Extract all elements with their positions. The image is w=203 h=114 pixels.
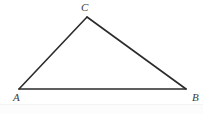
vertex-label-c: C [81, 2, 88, 13]
edge-a-to-c [19, 17, 87, 89]
vertex-label-a: A [13, 92, 20, 103]
vertex-label-b: B [192, 92, 199, 103]
edge-c-to-b [87, 17, 186, 89]
triangle-figure: C A B [0, 0, 203, 114]
triangle-drawing [0, 0, 203, 114]
